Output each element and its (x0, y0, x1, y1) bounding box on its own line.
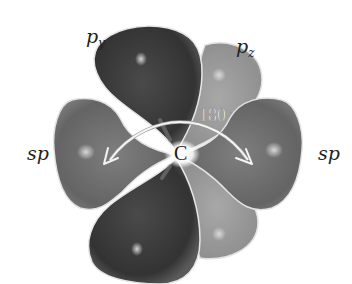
angle-label: 180° (199, 106, 233, 124)
sp-right-label: sp (318, 144, 340, 163)
sp-left-label: sp (27, 144, 49, 163)
pz-label: pz (236, 37, 255, 59)
carbon-atom-label: C (174, 143, 187, 163)
py-label: py (86, 27, 105, 49)
orbital-diagram: py pz sp sp 180° C (0, 0, 352, 284)
